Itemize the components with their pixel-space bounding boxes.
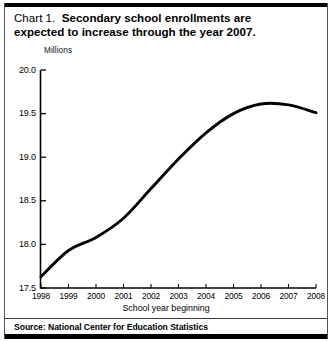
y-axis-tick-label: 19.0 [6,152,36,162]
x-axis-tick-label: 2005 [219,291,249,301]
x-axis-tick-label: 2007 [274,291,304,301]
x-axis-tick-label: 1998 [26,291,56,301]
x-axis-tick-label: 2004 [191,291,221,301]
source-divider [5,318,327,319]
chart-figure: Chart 1. Secondary school enrollments ar… [0,0,332,342]
plot-area: Millions 20.019.519.018.518.017.5 199819… [0,0,332,342]
x-axis-tick-label: 2008 [301,291,331,301]
y-axis-ticks [41,70,46,288]
x-axis-tick-label: 2002 [136,291,166,301]
y-axis-tick-label: 19.5 [6,108,36,118]
x-axis-tick-label: 2003 [164,291,194,301]
y-axis-tick-label: 20.0 [6,65,36,75]
x-axis-tick-label: 2000 [81,291,111,301]
x-axis-tick-label: 2001 [109,291,139,301]
y-axis-tick-label: 18.5 [6,195,36,205]
x-axis-tick-label: 2006 [246,291,276,301]
source-note: Source: National Center for Education St… [14,322,208,332]
x-axis-title: School year beginning [0,303,332,313]
y-axis-tick-label: 18.0 [6,239,36,249]
x-axis-tick-label: 1999 [54,291,84,301]
enrollment-line-series [41,103,316,276]
